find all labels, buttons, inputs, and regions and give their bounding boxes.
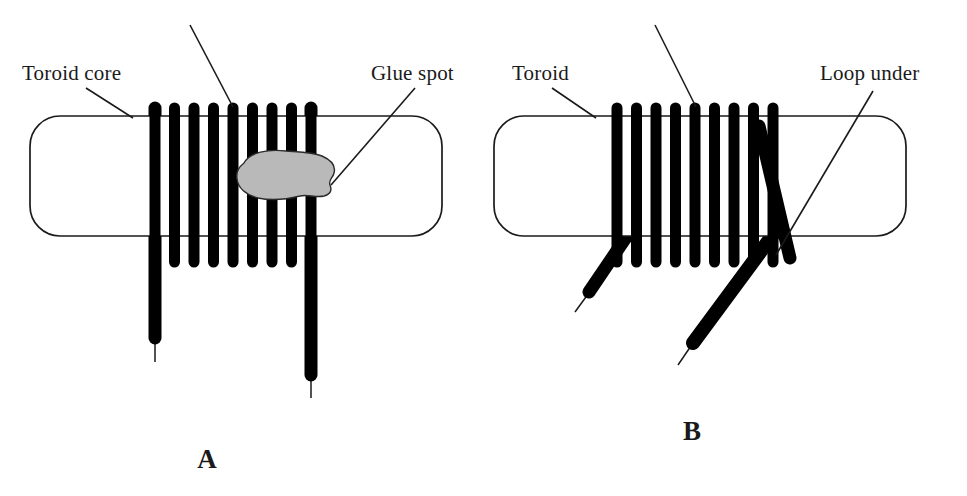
- panel-letter-b: B: [683, 416, 701, 446]
- toroid-winding-diagram: Toroid core Glue spot A: [0, 0, 967, 496]
- callout-line-toroid-core: [86, 88, 133, 118]
- label-toroid: Toroid: [512, 61, 569, 85]
- panel-a: Toroid core Glue spot A: [22, 25, 454, 474]
- figure-root: Toroid core Glue spot A: [0, 0, 967, 496]
- callout-line-winding-turn-a: [190, 25, 233, 107]
- panel-b: Toroid Loop under B: [494, 25, 919, 446]
- glue-spot-blob: [237, 150, 335, 199]
- panel-letter-a: A: [197, 444, 217, 474]
- label-toroid-core: Toroid core: [22, 61, 121, 85]
- panel-b-winding: [617, 108, 773, 262]
- label-loop-under: Loop under: [820, 61, 919, 85]
- label-glue-spot: Glue spot: [371, 61, 454, 85]
- callout-line-winding-turn-b: [655, 25, 696, 107]
- callout-line-toroid: [552, 88, 596, 118]
- panel-b-start-lead: [589, 230, 631, 292]
